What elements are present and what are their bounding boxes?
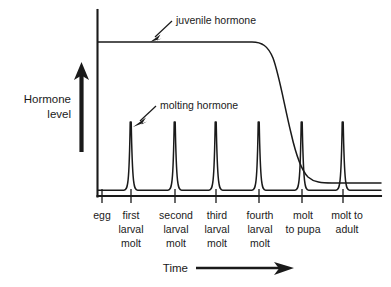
annotation-juvenile-hormone: juvenile hormone (150, 14, 256, 42)
tick-label-first-larval-molt-line1: first (123, 209, 140, 221)
x-axis-label: Time (163, 262, 188, 274)
figure-canvas: juvenile hormone molting hormone Hormone… (0, 0, 391, 287)
tick-label-first-larval-molt: first larval molt (118, 209, 143, 249)
tick-label-fourth-larval-molt-line2: larval (247, 223, 272, 235)
x-axis-tick-labels: egg first larval molt second larval molt… (93, 209, 363, 249)
axes-group (98, 10, 382, 197)
y-axis-label-line1: Hormone (24, 93, 71, 105)
tick-label-third-larval-molt-line1: third (207, 209, 228, 221)
tick-label-second-larval-molt-line1: second (159, 209, 193, 221)
tick-label-fourth-larval-molt-line3: molt (250, 237, 270, 249)
tick-label-molt-to-pupa: molt to pupa (285, 209, 320, 235)
tick-label-fourth-larval-molt-line1: fourth (247, 209, 274, 221)
molting-hormone-curve (98, 122, 381, 190)
tick-label-molt-to-pupa-line1: molt (293, 209, 313, 221)
annotation-molting-hormone: molting hormone (133, 99, 238, 127)
y-axis-label-line2: level (47, 108, 71, 120)
tick-label-egg-line1: egg (93, 209, 111, 221)
tick-label-second-larval-molt-line3: molt (166, 237, 186, 249)
tick-label-egg: egg (93, 209, 111, 221)
tick-label-molt-to-adult-line1: molt to (331, 209, 363, 221)
tick-label-third-larval-molt: third larval molt (204, 209, 229, 249)
juvenile-hormone-leader-line (155, 21, 172, 37)
molting-hormone-arrowhead (133, 118, 147, 128)
tick-label-second-larval-molt: second larval molt (159, 209, 193, 249)
x-axis-label-group: Time (163, 262, 294, 275)
molting-hormone-leader-line (140, 106, 156, 121)
tick-label-first-larval-molt-line3: molt (121, 237, 141, 249)
juvenile-hormone-curve (98, 42, 381, 183)
tick-label-molt-to-pupa-line2: to pupa (285, 223, 320, 235)
tick-label-third-larval-molt-line3: molt (207, 237, 227, 249)
juvenile-hormone-label: juvenile hormone (175, 14, 256, 26)
hormone-level-figure: juvenile hormone molting hormone Hormone… (0, 0, 391, 287)
tick-label-second-larval-molt-line2: larval (163, 223, 188, 235)
tick-label-third-larval-molt-line2: larval (204, 223, 229, 235)
tick-label-fourth-larval-molt: fourth larval molt (247, 209, 274, 249)
tick-label-molt-to-adult: molt to adult (331, 209, 363, 235)
y-axis-label-group: Hormone level (24, 62, 89, 152)
tick-label-molt-to-adult-line2: adult (336, 223, 359, 235)
tick-label-first-larval-molt-line2: larval (118, 223, 143, 235)
molting-hormone-label: molting hormone (160, 99, 238, 111)
